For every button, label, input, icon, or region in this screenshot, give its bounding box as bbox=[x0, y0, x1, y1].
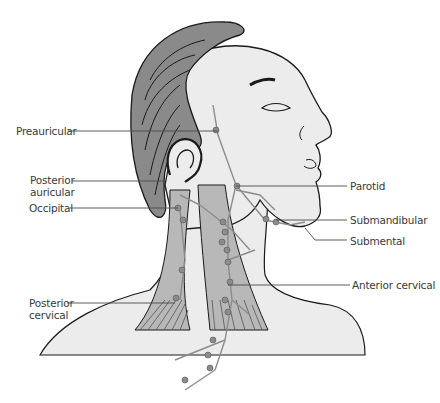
label-posterior-cervical-line1: Posterior bbox=[29, 297, 74, 309]
label-posterior-cervical: Posterior cervical bbox=[29, 297, 74, 321]
label-posterior-auricular: Posterior auricular bbox=[30, 174, 75, 198]
label-submental: Submental bbox=[350, 235, 405, 247]
label-occipital: Occipital bbox=[29, 202, 73, 214]
leader-submental bbox=[305, 228, 347, 240]
label-posterior-auricular-line1: Posterior bbox=[30, 174, 75, 186]
label-posterior-cervical-line2: cervical bbox=[29, 309, 74, 321]
lymph-node-diagram: Preauricular Posterior auricular Occipit… bbox=[0, 0, 440, 403]
label-anterior-cervical: Anterior cervical bbox=[352, 279, 435, 291]
label-posterior-auricular-line2: auricular bbox=[30, 186, 75, 198]
label-parotid: Parotid bbox=[350, 180, 385, 192]
label-preauricular: Preauricular bbox=[16, 125, 77, 137]
label-submandibular: Submandibular bbox=[350, 214, 427, 226]
